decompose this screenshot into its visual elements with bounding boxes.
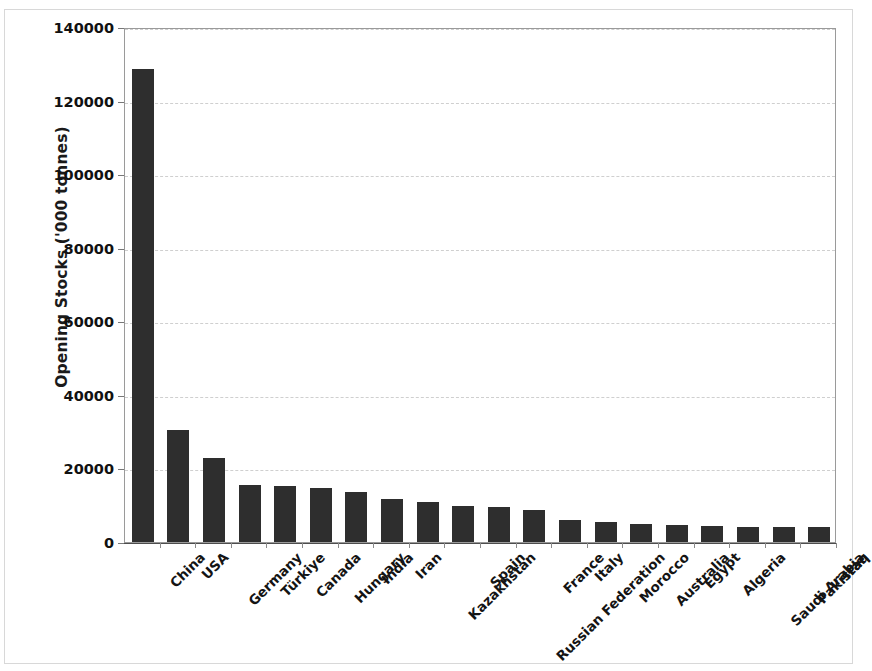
x-tick-label-text: India [379, 549, 417, 587]
bar[interactable] [773, 527, 795, 542]
gridline [125, 323, 835, 324]
x-tick-mark [516, 543, 517, 548]
x-tick-mark [444, 543, 445, 548]
bar[interactable] [239, 485, 261, 542]
bar[interactable] [630, 524, 652, 542]
x-tick-label: USA [199, 549, 232, 582]
gridline [125, 397, 835, 398]
x-tick-mark [694, 543, 695, 548]
gridline [125, 250, 835, 251]
y-tick-label: 100000 [12, 167, 124, 183]
x-tick-mark [551, 543, 552, 548]
gridline [125, 29, 835, 30]
y-tick-label: 0 [12, 535, 124, 551]
x-tick-mark [765, 543, 766, 548]
x-tick-label-text: Iran [412, 549, 445, 582]
x-tick-mark [800, 543, 801, 548]
x-tick-mark [373, 543, 374, 548]
bar[interactable] [452, 506, 474, 542]
bar[interactable] [666, 525, 688, 542]
y-tick-label: 40000 [12, 388, 124, 404]
bar[interactable] [167, 430, 189, 542]
x-tick-label: Iran [412, 549, 445, 582]
plot-area [124, 28, 836, 543]
x-tick-mark [622, 543, 623, 548]
bar[interactable] [417, 502, 439, 542]
bar[interactable] [701, 526, 723, 542]
x-tick-mark [587, 543, 588, 548]
bar[interactable] [345, 492, 367, 542]
x-tick-mark [266, 543, 267, 548]
x-tick-label: Algeria [739, 549, 789, 599]
bar[interactable] [808, 527, 830, 542]
x-tick-mark [409, 543, 410, 548]
bar[interactable] [559, 520, 581, 542]
x-tick-label-text: Algeria [739, 549, 789, 599]
bar[interactable] [310, 488, 332, 542]
x-tick-mark [480, 543, 481, 548]
bar[interactable] [595, 522, 617, 542]
bar[interactable] [274, 486, 296, 542]
x-tick-mark [338, 543, 339, 548]
bar[interactable] [737, 527, 759, 542]
x-tick-mark [231, 543, 232, 548]
y-tick-label: 80000 [12, 241, 124, 257]
x-tick-mark [729, 543, 730, 548]
x-tick-mark [836, 543, 837, 548]
x-tick-label-text: USA [199, 549, 232, 582]
bar[interactable] [203, 458, 225, 542]
bar[interactable] [381, 499, 403, 542]
gridline [125, 470, 835, 471]
y-axis-ticks: 020000400006000080000100000120000140000 [0, 0, 124, 671]
gridline [125, 176, 835, 177]
x-tick-label: India [379, 549, 417, 587]
x-tick-mark [658, 543, 659, 548]
bar[interactable] [488, 507, 510, 542]
bar[interactable] [523, 510, 545, 542]
y-tick-label: 140000 [12, 20, 124, 36]
gridline [125, 103, 835, 104]
y-tick-label: 60000 [12, 314, 124, 330]
x-tick-mark [160, 543, 161, 548]
x-tick-mark [302, 543, 303, 548]
bar[interactable] [132, 69, 154, 542]
x-tick-mark [195, 543, 196, 548]
y-tick-label: 20000 [12, 461, 124, 477]
y-tick-label: 120000 [12, 94, 124, 110]
